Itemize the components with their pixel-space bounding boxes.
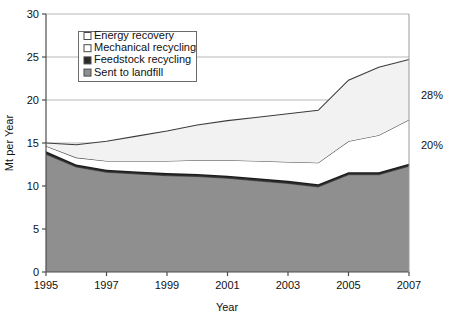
x-tick-label: 2005	[336, 279, 360, 291]
y-tick-label: 5	[33, 223, 39, 235]
y-tick-label: 30	[27, 8, 39, 20]
x-tick-label: 2003	[276, 279, 300, 291]
y-tick-label: 15	[27, 137, 39, 149]
x-tick-label: 2007	[397, 279, 421, 291]
x-axis-title: Year	[216, 301, 239, 313]
y-tick-label: 10	[27, 180, 39, 192]
x-tick-label: 1999	[155, 279, 179, 291]
legend-label-mechanical-recycling: Mechanical recycling	[94, 41, 196, 53]
y-tick-label: 25	[27, 51, 39, 63]
x-tick-label: 2001	[215, 279, 239, 291]
percentage-annotations: 28%20%	[421, 89, 443, 151]
annotation-20pct: 20%	[421, 139, 443, 151]
y-tick-label: 0	[33, 266, 39, 278]
chart-legend: Energy recoveryMechanical recyclingFeeds…	[79, 29, 197, 82]
chart-container: 051015202530 199519971999200120032005200…	[0, 0, 457, 323]
legend-label-feedstock-recycling: Feedstock recycling	[94, 53, 191, 65]
y-axis-title: Mt per Year	[3, 115, 15, 172]
legend-swatch-energy-recovery	[84, 33, 91, 40]
legend-label-sent-to-landfill: Sent to landfill	[94, 66, 163, 78]
legend-label-energy-recovery: Energy recovery	[94, 29, 175, 41]
legend-swatch-feedstock-recycling	[84, 57, 91, 64]
stacked-area-chart: 051015202530 199519971999200120032005200…	[0, 0, 457, 323]
x-axis-ticks: 1995199719992001200320052007	[34, 272, 421, 291]
legend-swatch-mechanical-recycling	[84, 45, 91, 52]
y-tick-label: 20	[27, 94, 39, 106]
x-tick-label: 1995	[34, 279, 58, 291]
legend-swatch-sent-to-landfill	[84, 69, 91, 76]
y-axis-ticks: 051015202530	[27, 8, 46, 278]
annotation-28pct: 28%	[421, 89, 443, 101]
x-tick-label: 1997	[94, 279, 118, 291]
area-series-group	[46, 60, 409, 272]
